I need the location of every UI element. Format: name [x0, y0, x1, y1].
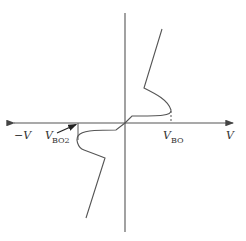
iv-characteristic-diagram: −V V V BO2 V BO: [0, 0, 246, 241]
vbo-label-sub: BO: [171, 136, 184, 145]
reverse-characteristic-curve: [77, 123, 125, 218]
positive-voltage-label: V: [226, 129, 235, 142]
vbo2-label-sub: BO2: [52, 136, 70, 145]
negative-voltage-label: −V: [14, 129, 32, 142]
forward-characteristic-curve: [125, 29, 171, 123]
vbo2-pointer-arrow: [57, 125, 76, 134]
